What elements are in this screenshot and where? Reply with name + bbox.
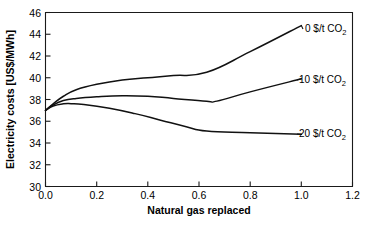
plot-frame <box>46 13 353 187</box>
y-tick-label: 36 <box>29 115 41 127</box>
y-axis-title: Electricity costs [US$/MWh] <box>4 30 16 169</box>
y-tick-label: 38 <box>29 94 41 106</box>
series-annotation-0-usd: 0 $/t CO2 <box>305 23 346 37</box>
leader-line-0-usd <box>301 26 303 29</box>
series-annotation-20-usd: 20 $/t CO2 <box>299 128 346 142</box>
y-tick-label: 44 <box>29 28 41 40</box>
y-tick-label: 42 <box>29 50 41 62</box>
y-tick-label: 46 <box>29 7 41 19</box>
chart-figure: 46 44 42 40 38 36 34 32 30 0.0 0.2 0.4 0… <box>0 0 366 227</box>
x-tick-label: 0.2 <box>89 189 104 201</box>
x-tick-label: 0.0 <box>38 189 53 201</box>
x-tick-label: 0.6 <box>192 189 207 201</box>
x-tick-label: 0.8 <box>243 189 258 201</box>
x-tick-label: 1.0 <box>294 189 309 201</box>
series-line-20-usd <box>46 103 302 134</box>
x-axis-tick-labels: 0.0 0.2 0.4 0.6 0.8 1.0 1.2 <box>38 189 360 201</box>
x-tick-label: 0.4 <box>140 189 155 201</box>
x-tick-label: 1.2 <box>345 189 360 201</box>
series-annotations: 0 $/t CO2 10 $/t CO2 20 $/t CO2 <box>299 23 346 142</box>
y-axis-tick-labels: 46 44 42 40 38 36 34 32 30 <box>29 7 41 193</box>
y-axis-ticks <box>46 13 51 187</box>
data-series-group <box>46 26 302 135</box>
y-tick-label: 40 <box>29 72 41 84</box>
y-tick-label: 34 <box>29 137 41 149</box>
series-line-10-usd <box>46 79 302 111</box>
y-tick-label: 32 <box>29 159 41 171</box>
x-axis-title: Natural gas replaced <box>147 204 250 216</box>
x-axis-ticks <box>46 182 353 187</box>
series-annotation-10-usd: 10 $/t CO2 <box>299 74 346 88</box>
line-chart: 46 44 42 40 38 36 34 32 30 0.0 0.2 0.4 0… <box>0 0 366 227</box>
